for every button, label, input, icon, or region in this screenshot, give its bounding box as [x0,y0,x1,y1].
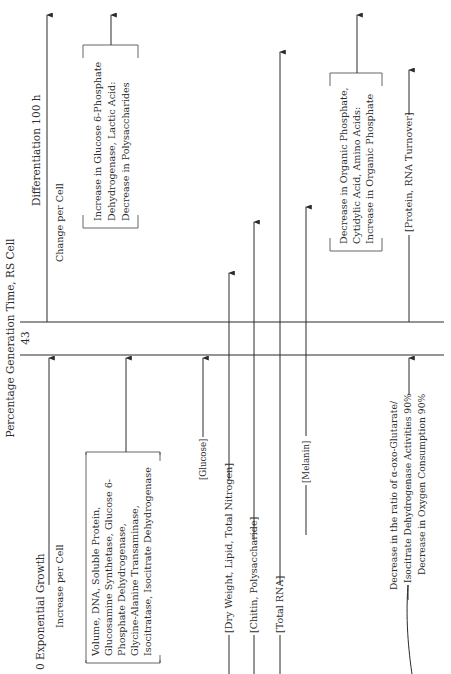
increase-group-text: Volume, DNA, Soluble Protein, Glucosamin… [90,467,153,657]
svg-text:Increase in Glucose 6-Phosphat: Increase in Glucose 6-Phosphate [92,61,103,221]
svg-text:Glucosamine Synthetase, Glucos: Glucosamine Synthetase, Glucose 6- [103,479,114,656]
phosphate-group-text: Decrease in Organic Phosphate, Cytidylic… [338,87,375,244]
svg-text:Increase in Organic Phosphate: Increase in Organic Phosphate [364,94,375,244]
svg-text:Isocitratase, Isocitrate Dehyd: Isocitratase, Isocitrate Dehydrogenase [142,467,153,656]
svg-text:Decrease in Oxygen Consumption: Decrease in Oxygen Consumption 90% [416,393,427,575]
svg-text:Cytidylic Acid, Amino Acids:: Cytidylic Acid, Amino Acids: [351,107,362,244]
svg-text:Decrease in the ratio of α-oxo: Decrease in the ratio of α-oxo-Glutarate… [388,400,399,590]
svg-text:Decrease in Organic Phosphate,: Decrease in Organic Phosphate, [338,87,349,244]
item-total-rna-label: [Total RNA] [274,576,285,633]
item-melanin-label: [Melanin] [301,441,311,483]
item-dry-weight-label: [Dry Weight, Lipid, Total Nitrogen] [223,463,234,633]
axis-title: Percentage Generation Time, RS Cell [4,238,16,438]
axis-start-label: 0 Exponential Growth [34,553,46,670]
axis-end-label: Differentiation 100 h [30,94,42,206]
decrease-group-curve [407,585,412,674]
svg-text:Isocitrate Dehydrogenase Activ: Isocitrate Dehydrogenase Activities 90% [402,393,413,583]
svg-text:Glycine-Alanine Transaminase,: Glycine-Alanine Transaminase, [129,505,140,656]
axis-marker-43: 43 [19,331,31,344]
time-course-diagram: Percentage Generation Time, RS Cell 43 0… [0,0,451,674]
svg-text:Dehydrogenase, Lactic Acid:: Dehydrogenase, Lactic Acid: [106,82,117,221]
svg-text:Phosphate Dehydrogenase,: Phosphate Dehydrogenase, [116,523,127,656]
decrease-group-text: Decrease in the ratio of α-oxo-Glutarate… [388,393,427,590]
svg-text:Decrease in Polysaccharides: Decrease in Polysaccharides [120,82,131,221]
svg-text:Volume, DNA, Soluble Protein,: Volume, DNA, Soluble Protein, [90,507,101,657]
phase-increase-per-cell: Increase per Cell [54,544,65,628]
glucose6-group-text: Increase in Glucose 6-Phosphate Dehydrog… [92,61,131,221]
item-protein-turnover-label: [Protein, RNA Turnover] [403,112,414,232]
item-glucose-label: [Glucose] [198,439,208,480]
phase-change-per-cell: Change per Cell [54,183,65,262]
